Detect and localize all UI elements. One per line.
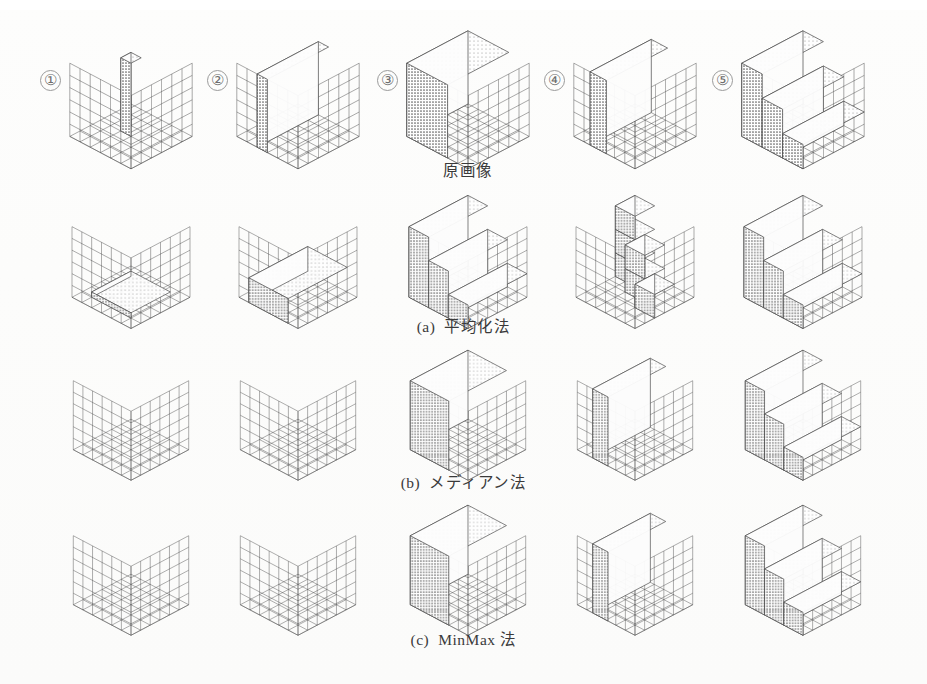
voxel-plot-row-b-3 (393, 340, 543, 472)
voxel-plot-row-b-2 (223, 340, 373, 472)
caption-text: 平均化法 (444, 318, 510, 335)
voxel-plot-row-b-1 (56, 340, 206, 472)
voxel-plot-row-original-1 (56, 20, 206, 160)
caption-original: 原画像 (0, 158, 927, 180)
caption-averaging: (a)平均化法 (0, 314, 927, 336)
figure-page: 図 3 前処理手法による三次元形状の比較 ① ② ③ ④ (0, 0, 927, 684)
row-minmax (0, 495, 927, 627)
voxel-plot-row-a-5 (728, 185, 878, 320)
voxel-plot-row-original-2 (223, 20, 373, 160)
row-original: ① ② ③ ④ (0, 20, 927, 160)
caption-label: (b) (401, 474, 421, 491)
caption-minmax: (c)MinMax 法 (0, 627, 927, 649)
voxel-plot-row-original-4 (560, 20, 710, 160)
caption-median: (b)メディアン法 (0, 470, 927, 492)
voxel-plot-row-original-3 (393, 20, 543, 160)
voxel-plot-row-c-2 (223, 495, 373, 627)
voxel-plot-row-a-2 (223, 185, 373, 320)
voxel-plot-row-a-1 (56, 185, 206, 320)
voxel-plot-row-c-4 (560, 495, 710, 627)
caption-text: メディアン法 (429, 474, 526, 491)
row-averaging (0, 185, 927, 320)
voxel-plot-row-a-4 (560, 185, 710, 320)
voxel-plot-row-b-4 (560, 340, 710, 472)
caption-text: MinMax 法 (438, 631, 516, 648)
voxel-plot-row-original-5 (728, 20, 878, 160)
voxel-plot-row-c-3 (393, 495, 543, 627)
voxel-plot-row-b-5 (728, 340, 878, 472)
top-clip-mask (0, 0, 927, 10)
caption-label: (a) (417, 318, 436, 335)
voxel-plot-row-c-1 (56, 495, 206, 627)
row-median (0, 340, 927, 472)
voxel-plot-row-a-3 (393, 185, 543, 320)
caption-label: (c) (411, 631, 430, 648)
voxel-plot-row-c-5 (728, 495, 878, 627)
caption-text: 原画像 (443, 162, 493, 179)
